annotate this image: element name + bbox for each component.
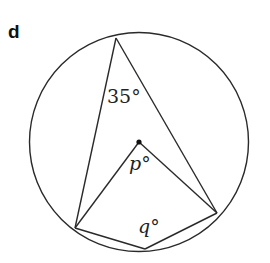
angle-label-35: 35° — [107, 85, 141, 107]
chord-top-to-right — [116, 38, 217, 213]
diagram-canvas: 35° p° q° — [0, 0, 270, 263]
part-label: d — [8, 22, 20, 41]
angle-label-p: p° — [129, 152, 151, 174]
center-point — [136, 139, 141, 144]
chord-left-to-bottom — [75, 228, 145, 249]
radius-to-right — [139, 142, 217, 213]
circle-theorem-figure: d 35° p° q° — [0, 0, 270, 263]
angle-label-q: q° — [138, 215, 160, 237]
